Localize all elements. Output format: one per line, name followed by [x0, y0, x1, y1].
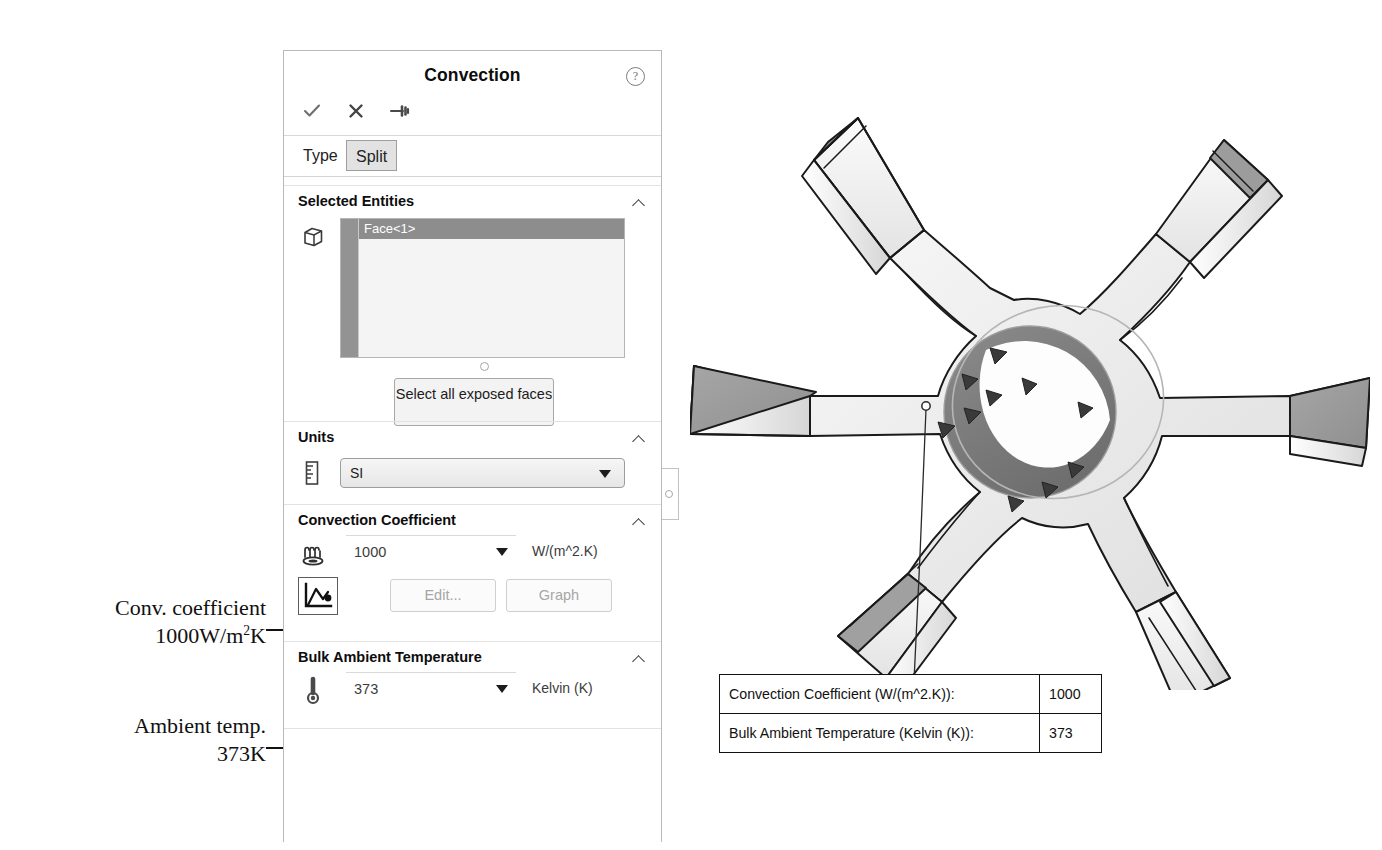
- chevron-down-icon[interactable]: [496, 685, 508, 693]
- help-circle-icon[interactable]: ?: [626, 67, 645, 86]
- list-item[interactable]: Face<1>: [359, 219, 624, 239]
- graphics-area-impeller-model[interactable]: [690, 30, 1370, 690]
- chevron-up-icon[interactable]: [634, 654, 645, 665]
- section-divider-bottom: [284, 728, 661, 739]
- curve-graph-icon[interactable]: [298, 577, 338, 615]
- annotation-line-1: Conv. coefficient: [46, 594, 266, 622]
- section-header-bulk-ambient-temperature[interactable]: Bulk Ambient Temperature: [284, 642, 661, 672]
- panel-tab-bar: Type Split: [284, 136, 661, 177]
- section-units: Units SI: [284, 421, 661, 504]
- annotation-convection-coefficient: Conv. coefficient 1000W/m2K: [46, 594, 266, 650]
- pushpin-icon[interactable]: [386, 99, 414, 125]
- section-title: Convection Coefficient: [298, 512, 456, 528]
- convection-coefficient-unit-label: W/(m^2.K): [532, 543, 598, 559]
- units-body: SI: [284, 452, 661, 504]
- face-cube-icon: [300, 224, 326, 250]
- cancel-x-icon[interactable]: [342, 99, 370, 125]
- list-resize-grip[interactable]: [480, 362, 489, 371]
- ok-check-icon[interactable]: [298, 99, 326, 125]
- thermometer-icon: [305, 676, 321, 706]
- callout-row: Convection Coefficient (W/(m^2.K)): 1000: [720, 675, 1101, 713]
- section-bulk-ambient-temperature: Bulk Ambient Temperature 373 Kelvin (K): [284, 641, 661, 728]
- list-gutter: [341, 219, 358, 357]
- ruler-units-icon: [302, 460, 322, 486]
- callout-row: Bulk Ambient Temperature (Kelvin (K)): 3…: [720, 713, 1101, 752]
- edit-button[interactable]: Edit...: [390, 579, 496, 612]
- callout-value: 1000: [1039, 675, 1101, 713]
- panel-toolbar: [284, 93, 661, 136]
- chevron-down-icon[interactable]: [496, 548, 508, 556]
- callout-label: Bulk Ambient Temperature (Kelvin (K)):: [720, 725, 1039, 741]
- section-header-units[interactable]: Units: [284, 422, 661, 452]
- selected-entities-body: Face<1> Select all exposed faces: [284, 216, 661, 421]
- section-title: Selected Entities: [298, 193, 414, 209]
- panel-title: Convection: [284, 65, 661, 86]
- convection-coefficient-body: 1000 W/(m^2.K) Edit... Graph: [284, 535, 661, 641]
- annotation-line-2: 373K: [46, 740, 266, 768]
- bulk-ambient-temperature-input[interactable]: 373: [346, 672, 516, 702]
- chevron-up-icon[interactable]: [634, 517, 645, 528]
- convection-coefficient-input[interactable]: 1000: [346, 535, 516, 565]
- chevron-up-icon[interactable]: [634, 198, 645, 209]
- select-all-exposed-faces-button[interactable]: Select all exposed faces: [394, 378, 554, 426]
- chevron-up-icon[interactable]: [634, 434, 645, 445]
- callout-leader-line: [880, 395, 960, 685]
- callout-value: 373: [1039, 714, 1101, 752]
- annotation-ambient-temperature: Ambient temp. 373K: [46, 712, 266, 768]
- convection-coefficient-value: 1000: [354, 544, 386, 560]
- tab-type[interactable]: Type: [294, 140, 347, 171]
- callout-table: Convection Coefficient (W/(m^2.K)): 1000…: [719, 674, 1102, 753]
- annotation-line-2: 1000W/m2K: [46, 622, 266, 650]
- units-select[interactable]: SI: [340, 458, 625, 488]
- section-convection-coefficient: Convection Coefficient 1000: [284, 504, 661, 641]
- panel-title-row: Convection ?: [284, 51, 661, 93]
- callout-label: Convection Coefficient (W/(m^2.K)):: [720, 686, 1039, 702]
- list-items[interactable]: Face<1>: [358, 219, 624, 357]
- tab-split[interactable]: Split: [346, 140, 397, 171]
- section-header-convection-coefficient[interactable]: Convection Coefficient: [284, 505, 661, 535]
- units-value: SI: [350, 465, 363, 481]
- chevron-down-icon[interactable]: [599, 470, 611, 478]
- bulk-ambient-temperature-body: 373 Kelvin (K): [284, 672, 661, 728]
- property-manager-panel: Convection ? Type Split: [283, 50, 662, 842]
- bulk-ambient-temperature-unit-label: Kelvin (K): [532, 680, 593, 696]
- convection-heat-icon: [298, 541, 328, 571]
- graph-button[interactable]: Graph: [506, 579, 612, 612]
- annotation-line-1: Ambient temp.: [46, 712, 266, 740]
- panel-edge-handle-dot: [665, 490, 673, 498]
- selected-entities-list[interactable]: Face<1>: [340, 218, 625, 358]
- bulk-ambient-temperature-value: 373: [354, 681, 378, 697]
- section-title: Units: [298, 429, 334, 445]
- section-selected-entities: Selected Entities Face<1> Select all exp…: [284, 185, 661, 421]
- section-header-selected-entities[interactable]: Selected Entities: [284, 186, 661, 216]
- section-title: Bulk Ambient Temperature: [298, 649, 482, 665]
